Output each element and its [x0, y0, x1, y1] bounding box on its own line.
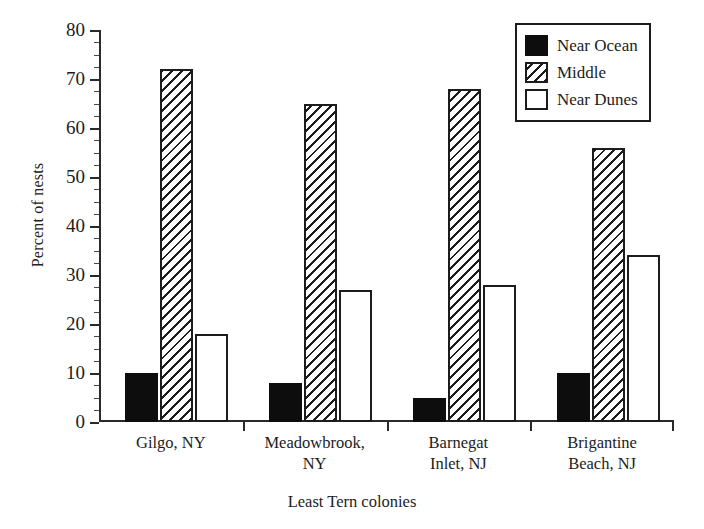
x-category-label-line: Gilgo, NY	[99, 432, 243, 453]
y-tick-label: 30	[66, 264, 85, 286]
y-tick-label: 20	[66, 313, 85, 335]
x-tick-mark	[243, 422, 245, 431]
bar	[269, 383, 302, 422]
bar	[195, 334, 228, 422]
y-tick-label: 0	[76, 411, 86, 433]
bar-group	[99, 30, 243, 422]
x-category-label-line: Beach, NJ	[530, 453, 674, 474]
y-tick-mark	[90, 275, 99, 277]
hatched-swatch	[525, 62, 548, 83]
chart-legend: Near OceanMiddleNear Dunes	[515, 23, 651, 122]
x-category-label: BarnegatInlet, NJ	[387, 432, 531, 474]
y-axis-title: Percent of nests	[29, 115, 47, 315]
legend-item: Middle	[525, 59, 638, 86]
x-tick-mark	[530, 422, 532, 431]
legend-item: Near Ocean	[525, 32, 638, 59]
x-category-label-line: Inlet, NJ	[387, 453, 531, 474]
y-tick-mark	[90, 30, 99, 32]
y-tick-mark	[90, 373, 99, 375]
y-tick-mark	[90, 226, 99, 228]
bar	[627, 255, 660, 422]
bar	[557, 373, 590, 422]
x-category-label-line: NY	[243, 453, 387, 474]
y-tick-mark	[90, 128, 99, 130]
bar	[160, 69, 193, 422]
y-tick-label: 60	[66, 117, 85, 139]
y-tick-mark	[90, 324, 99, 326]
bar	[125, 373, 158, 422]
y-tick-mark	[90, 422, 99, 424]
solid-black-swatch	[525, 35, 548, 56]
open-white-swatch	[525, 89, 548, 110]
bar	[483, 285, 516, 422]
x-category-label: Meadowbrook,NY	[243, 432, 387, 474]
legend-item-label: Middle	[557, 63, 606, 83]
x-category-label: Gilgo, NY	[99, 432, 243, 453]
x-tick-mark	[672, 422, 674, 431]
y-tick-mark	[90, 79, 99, 81]
bar	[339, 290, 372, 422]
x-tick-mark	[387, 422, 389, 431]
x-category-label-line: Meadowbrook,	[243, 432, 387, 453]
y-tick-label: 10	[66, 362, 85, 384]
y-tick-label: 50	[66, 166, 85, 188]
legend-item-label: Near Ocean	[557, 36, 638, 56]
x-category-label-line: Brigantine	[530, 432, 674, 453]
legend-item: Near Dunes	[525, 86, 638, 113]
y-tick-mark	[90, 177, 99, 179]
x-category-label-line: Barnegat	[387, 432, 531, 453]
bar	[304, 104, 337, 423]
legend-item-label: Near Dunes	[557, 90, 638, 110]
bar-group	[387, 30, 531, 422]
y-tick-label: 40	[66, 215, 85, 237]
bar	[448, 89, 481, 422]
bar-chart-figure: Percent of nests 01020304050607080 Gilgo…	[0, 0, 704, 529]
bar-group	[243, 30, 387, 422]
bar	[413, 398, 446, 423]
y-tick-label: 80	[66, 19, 85, 41]
y-tick-label: 70	[66, 68, 85, 90]
bar	[592, 148, 625, 422]
x-axis-title: Least Tern colonies	[0, 492, 704, 512]
x-category-label: BrigantineBeach, NJ	[530, 432, 674, 474]
